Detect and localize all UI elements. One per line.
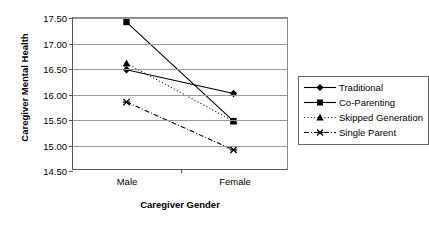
- y-axis-title: Caregiver Mental Health: [19, 8, 30, 168]
- legend-swatch-triangle-icon: [303, 111, 337, 124]
- gridline: [73, 18, 287, 19]
- x-axis-category-label: Female: [219, 176, 251, 187]
- x-axis-tick: [181, 169, 182, 173]
- legend-swatch-square-icon: [303, 96, 337, 109]
- y-axis-tick-label: 17.00: [43, 38, 67, 49]
- legend-item: Co-Parenting: [303, 95, 423, 110]
- y-axis-tick: [69, 171, 73, 172]
- y-axis-tick: [69, 18, 73, 19]
- legend-label: Single Parent: [337, 127, 396, 138]
- legend-label: Co-Parenting: [337, 97, 395, 108]
- y-axis-tick-label: 14.50: [43, 166, 67, 177]
- gridline: [73, 44, 287, 45]
- series-co-parenting: [123, 19, 236, 124]
- legend-item: Traditional: [303, 80, 423, 95]
- legend-swatch-diamond-icon: [303, 81, 337, 94]
- legend-label: Traditional: [337, 82, 383, 93]
- y-axis-tick-label: 17.50: [43, 13, 67, 24]
- y-axis-tick-label: 16.00: [43, 89, 67, 100]
- legend-item: Skipped Generation: [303, 110, 423, 125]
- x-axis-title: Caregiver Gender: [72, 199, 288, 210]
- y-axis-tick: [69, 95, 73, 96]
- y-axis-tick-label: 15.50: [43, 115, 67, 126]
- y-axis-tick: [69, 146, 73, 147]
- y-axis-tick-label: 16.50: [43, 64, 67, 75]
- x-axis-category-label: Male: [117, 176, 138, 187]
- gridline: [73, 120, 287, 121]
- gridline: [73, 95, 287, 96]
- plot-area: 14.5015.0015.5016.0016.5017.0017.50MaleF…: [72, 17, 288, 170]
- gridline: [73, 146, 287, 147]
- chart-legend: TraditionalCo-ParentingSkipped Generatio…: [298, 76, 429, 145]
- legend-swatch-cross-icon: [303, 126, 337, 139]
- y-axis-tick: [69, 44, 73, 45]
- legend-label: Skipped Generation: [337, 112, 423, 123]
- gridline: [73, 69, 287, 70]
- legend-item: Single Parent: [303, 125, 423, 140]
- y-axis-tick: [69, 69, 73, 70]
- y-axis-tick: [69, 120, 73, 121]
- y-axis-tick-label: 15.00: [43, 140, 67, 151]
